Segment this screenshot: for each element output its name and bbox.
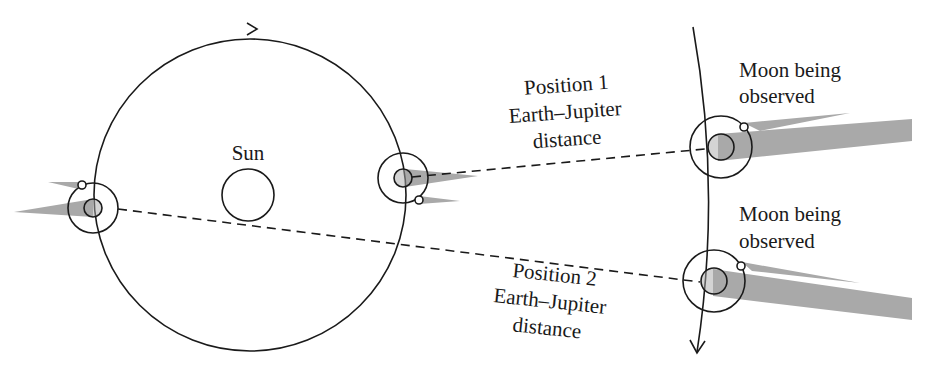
svg-text:Moon being: Moon being: [739, 202, 842, 226]
moon-upper-label: Moon being observed: [739, 58, 842, 108]
svg-text:distance: distance: [532, 125, 602, 154]
earth-moon: [78, 181, 86, 189]
earth-orbit-arrow-icon: [247, 23, 257, 35]
right-earth-moon-shadow: [419, 196, 460, 204]
earth: [84, 199, 102, 217]
observed-moon: [740, 123, 748, 131]
sun-label: Sun: [232, 141, 265, 165]
svg-text:Position 1: Position 1: [523, 70, 609, 100]
svg-text:Earth–Jupiter: Earth–Jupiter: [508, 96, 623, 128]
position2-sight-line: [118, 209, 700, 282]
position2-label: Position 2 Earth–Jupiter distance: [490, 256, 611, 345]
diagram-canvas: Sun Position 1 Earth–Jupiter distance Po…: [0, 0, 932, 368]
svg-text:observed: observed: [739, 229, 815, 253]
earth-orbit: [94, 39, 406, 351]
left-earth-shadow: [14, 199, 93, 217]
jupiter: [701, 268, 727, 294]
position1-sight-line: [412, 149, 705, 177]
svg-text:Moon being: Moon being: [739, 58, 842, 82]
svg-text:distance: distance: [512, 312, 583, 343]
moon-lower-label: Moon being observed: [739, 202, 842, 253]
earth: [394, 169, 412, 187]
observed-moon: [737, 262, 745, 270]
right-earth-shadow: [405, 169, 478, 187]
jupiter-orbit: [693, 27, 709, 352]
svg-text:observed: observed: [739, 84, 815, 108]
earth-moon: [415, 196, 423, 204]
position1-label: Position 1 Earth–Jupiter distance: [506, 69, 624, 155]
sun: [222, 169, 274, 221]
jupiter: [708, 134, 734, 160]
